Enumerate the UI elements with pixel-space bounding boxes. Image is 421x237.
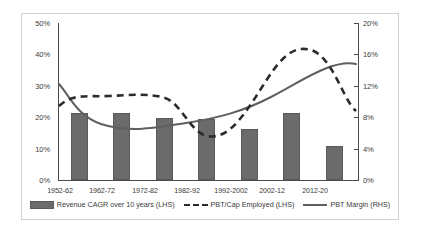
y-axis-left-tick-3: 30%	[24, 82, 50, 91]
x-axis-label-1952-62: 1952-62	[38, 186, 82, 195]
solid-line-swatch-icon	[303, 204, 327, 206]
x-axis-label-2012-20: 2012-20	[293, 186, 337, 195]
y-axis-right-tick-2: 8%	[363, 113, 389, 122]
chart-legend: Revenue CAGR over 10 years (LHS) PBT/Cap…	[21, 200, 399, 209]
y-axis-right-tick-1: 4%	[363, 145, 389, 154]
plot-area	[59, 23, 356, 180]
x-axis-label-1972-82: 1972-82	[123, 186, 167, 195]
x-axis-label-1992-2002: 1992-2002	[206, 186, 256, 195]
y-axis-right-tickmark-0	[354, 180, 359, 181]
legend-label-revenue-cagr: Revenue CAGR over 10 years (LHS)	[57, 200, 175, 209]
pbt-margin-line	[59, 63, 356, 129]
y-axis-right-tick-0: 0%	[363, 176, 389, 185]
legend-label-pbt-margin: PBT Margin (RHS)	[330, 200, 390, 209]
x-axis-label-1962-72: 1962-72	[80, 186, 124, 195]
chart-container: 50% 40% 30% 20% 10% 0% 20% 16% 12% 8% 4%…	[21, 13, 399, 220]
dashed-line-swatch-icon	[184, 204, 208, 206]
legend-item-pbt-margin: PBT Margin (RHS)	[303, 200, 390, 209]
y-axis-left-tick-5: 50%	[24, 19, 50, 28]
x-axis-line	[58, 180, 358, 181]
legend-item-pbt-cap-employed: PBT/Cap Employed (LHS)	[184, 200, 295, 209]
y-axis-left-tick-1: 10%	[24, 145, 50, 154]
y-axis-right-tick-5: 20%	[363, 19, 389, 28]
legend-item-revenue-cagr: Revenue CAGR over 10 years (LHS)	[30, 200, 175, 209]
x-axis-label-1982-92: 1982-92	[165, 186, 209, 195]
y-axis-right-tick-4: 16%	[363, 50, 389, 59]
series-lines	[59, 23, 356, 180]
y-axis-left-tick-4: 40%	[24, 50, 50, 59]
y-axis-right-line	[358, 23, 359, 181]
y-axis-right-tick-3: 12%	[363, 82, 389, 91]
y-axis-left-tick-2: 20%	[24, 113, 50, 122]
bar-swatch-icon	[30, 201, 54, 209]
legend-label-pbt-cap-employed: PBT/Cap Employed (LHS)	[211, 200, 295, 209]
y-axis-left-tick-0: 0%	[24, 176, 50, 185]
x-axis-label-2002-12: 2002-12	[250, 186, 294, 195]
pbt-cap-employed-line	[59, 49, 356, 137]
